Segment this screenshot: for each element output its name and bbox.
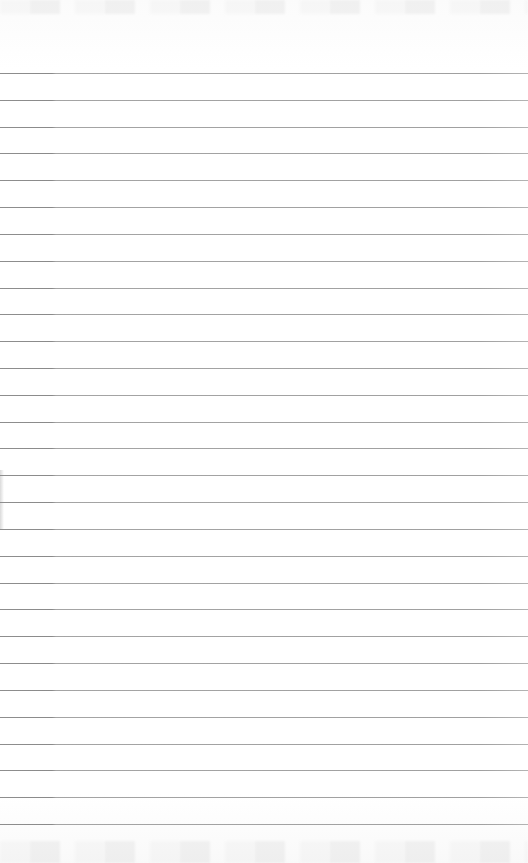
- ruled-line: [0, 422, 528, 423]
- ruled-line: [0, 663, 528, 664]
- ruled-line: [0, 529, 528, 530]
- bleed-through-marks-bottom: [0, 841, 528, 863]
- ruled-line: [0, 207, 528, 208]
- ruled-line: [0, 234, 528, 235]
- ruled-line: [0, 690, 528, 691]
- edge-shadow: [0, 470, 4, 530]
- ruled-line: [0, 395, 528, 396]
- ruled-line: [0, 824, 528, 825]
- ruled-line: [0, 502, 528, 503]
- lined-paper-sheet: [0, 0, 528, 863]
- ruled-line: [0, 609, 528, 610]
- ruled-line: [0, 314, 528, 315]
- ruled-line: [0, 368, 528, 369]
- ruled-line: [0, 261, 528, 262]
- ruled-line: [0, 475, 528, 476]
- ruled-line: [0, 100, 528, 101]
- ruled-line: [0, 153, 528, 154]
- ruled-line: [0, 180, 528, 181]
- bleed-through-marks-top: [0, 0, 528, 14]
- ruled-line: [0, 583, 528, 584]
- ruled-line: [0, 448, 528, 449]
- ruled-line: [0, 717, 528, 718]
- ruled-line: [0, 770, 528, 771]
- ruled-line: [0, 556, 528, 557]
- ruled-line: [0, 797, 528, 798]
- ruled-line: [0, 341, 528, 342]
- ruled-line: [0, 73, 528, 74]
- ruled-line: [0, 127, 528, 128]
- ruled-line: [0, 636, 528, 637]
- ruled-line: [0, 288, 528, 289]
- ruled-line: [0, 744, 528, 745]
